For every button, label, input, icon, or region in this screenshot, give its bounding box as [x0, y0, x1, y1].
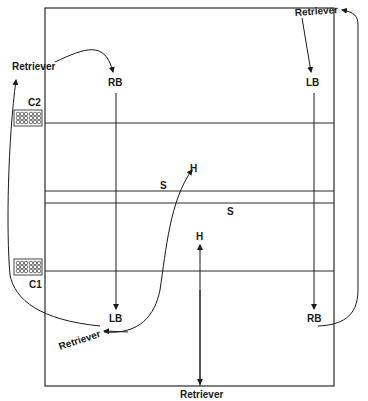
court-boundary: [45, 8, 334, 386]
label-c2: C2: [28, 97, 41, 108]
rb-to-retriever-curve: [318, 10, 358, 326]
label-retriever-top-left: Retriever: [12, 61, 55, 72]
label-h-lower: H: [196, 231, 203, 242]
retriever-to-lb-arrow: [302, 18, 311, 72]
label-h-upper: H: [190, 163, 197, 174]
label-s-right: S: [227, 206, 234, 217]
label-c1: C1: [29, 279, 42, 290]
label-lb-top-right: LB: [306, 77, 319, 88]
label-retriever-bottom-left: Retriever: [57, 328, 102, 352]
label-retriever-top-right: Retriever: [294, 4, 338, 18]
court-diagram: Retriever RB C2 Retriever LB H S S H C1 …: [0, 0, 368, 401]
label-s-left: S: [160, 180, 167, 191]
label-rb-top: RB: [108, 77, 122, 88]
label-retriever-bottom: Retriever: [180, 389, 223, 400]
label-rb-bottom-right: RB: [307, 313, 321, 324]
retriever-to-rb-arrow: [55, 50, 113, 72]
label-lb-bottom: LB: [109, 313, 122, 324]
h-curve-arrow: [104, 170, 192, 332]
